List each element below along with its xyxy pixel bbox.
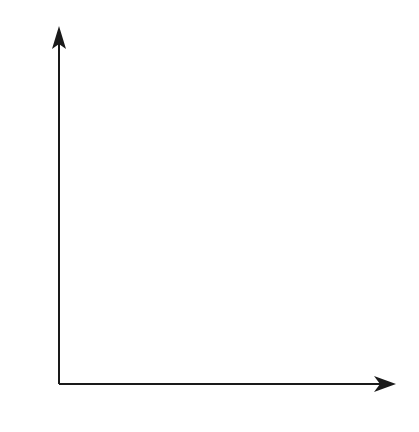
coordinate-grid <box>0 0 419 432</box>
axes <box>52 26 396 392</box>
